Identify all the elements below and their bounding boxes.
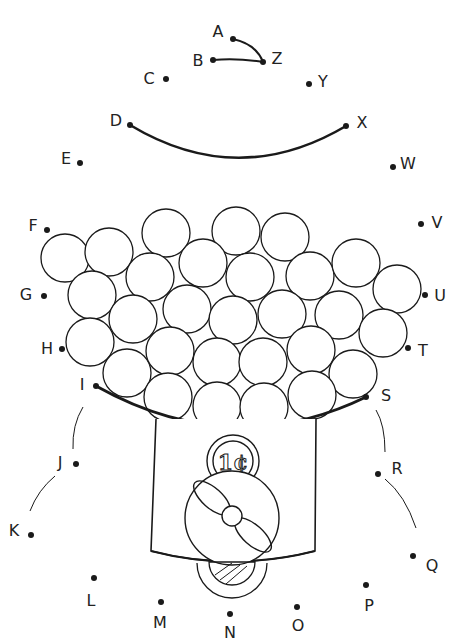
dot-marker [59,346,65,352]
gumball [373,265,421,313]
dot-label: S [381,386,391,405]
dot-marker [260,59,266,65]
dot-u: U [422,286,446,305]
dot-marker [230,36,236,42]
gumball [66,318,114,366]
dot-marker [390,164,396,170]
dot-c: C [143,69,169,88]
gumball [146,327,194,375]
gumball [359,309,407,357]
dot-label: N [224,623,236,642]
dot-z: Z [260,49,283,68]
dot-r: R [375,459,403,478]
hint-j-k [30,476,55,511]
dot-m: M [153,599,167,632]
gumball [109,295,157,343]
dot-t: T [405,341,428,360]
dot-label: H [41,339,53,358]
dot-w: W [390,154,416,173]
gum-chute [197,562,267,598]
dot-marker [158,599,164,605]
dot-marker [41,293,47,299]
dot-b: B [193,51,216,70]
dot-v: V [418,213,443,232]
dot-g: G [20,285,47,304]
dot-label: D [110,111,122,130]
dot-label: M [153,613,167,632]
dot-marker [363,582,369,588]
dot-h: H [41,339,65,358]
dot-label: E [61,149,71,168]
machine-body: 1¢ [151,419,316,598]
dot-a: A [213,22,236,42]
dot-marker [306,81,312,87]
dot-x: X [343,113,368,132]
dot-label: U [434,286,446,305]
gumball [68,271,116,319]
dot-label: A [213,22,224,41]
dot-marker [93,383,99,389]
dot-l: L [87,575,97,610]
dot-label: L [87,591,96,610]
dot-d: D [110,111,133,130]
dot-label: O [292,616,305,635]
dot-e: E [61,149,83,168]
dot-label: V [432,213,443,232]
dot-marker [294,604,300,610]
dot-label: Y [317,72,328,91]
dot-marker [163,76,169,82]
dot-p: P [363,582,374,615]
crank-knob [185,471,279,565]
gumball [179,239,227,287]
dot-marker [91,575,97,581]
gumball [193,338,241,386]
hint-s-r [376,410,385,452]
dot-label: Z [272,49,283,68]
dot-y: Y [306,72,328,91]
hint-i-j [73,407,83,449]
gumball [103,349,151,397]
dot-label: B [193,51,204,70]
dot-marker [410,553,416,559]
dot-label: P [364,596,374,615]
gumball [239,338,287,386]
dot-label: I [80,375,85,394]
dot-f: F [28,216,50,235]
dot-label: F [28,216,37,235]
dot-marker [28,532,34,538]
gumball [287,326,335,374]
dot-marker [127,122,133,128]
dot-j: J [57,453,79,472]
dot-label: W [400,154,416,173]
dot-label: G [20,285,32,304]
dot-i: I [80,375,99,394]
dot-q: Q [410,553,438,575]
gumball [209,296,257,344]
gumball [163,285,211,333]
dot-marker [422,292,428,298]
gumball [332,239,380,287]
dot-label: T [417,341,428,360]
dot-n: N [224,611,236,642]
dot-to-dot-worksheet: 1¢ ABCDEFGHIJKLMNOPQRSTUVWXYZ [0,0,461,643]
dot-o: O [292,604,305,635]
dot-k: K [9,521,34,540]
dot-marker [418,221,424,227]
dot-marker [405,345,411,351]
dot-label: C [143,69,154,88]
gumball [126,253,174,301]
gumball [226,253,274,301]
dot-label: R [391,459,402,478]
dot-label: K [9,521,20,540]
dot-marker [210,57,216,63]
dot-marker [375,471,381,477]
dot-marker [343,123,349,129]
arc-d-x [130,125,346,158]
dot-marker [227,611,233,617]
dot-marker [73,461,79,467]
dot-marker [44,227,50,233]
dot-label: J [57,453,63,472]
dot-marker [77,160,83,166]
line-b-z [213,59,263,62]
dot-label: X [357,113,368,132]
